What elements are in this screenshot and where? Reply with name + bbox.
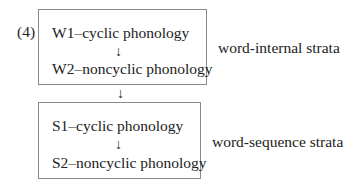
- word-internal-box: W1–cyclic phonology ↓ W2–noncyclic phono…: [38, 9, 207, 85]
- w1-cyclic-label: W1–cyclic phonology: [52, 24, 189, 42]
- example-number: (4): [17, 23, 35, 41]
- down-arrow-icon: ↓: [117, 87, 124, 101]
- word-internal-strata-label: word-internal strata: [218, 39, 340, 57]
- down-arrow-icon: ↓: [115, 45, 122, 59]
- s2-noncyclic-label: S2–noncyclic phonology: [52, 154, 207, 172]
- word-sequence-strata-label: word-sequence strata: [212, 133, 343, 151]
- w2-noncyclic-label: W2–noncyclic phonology: [52, 60, 213, 78]
- s1-cyclic-label: S1–cyclic phonology: [52, 117, 183, 135]
- word-sequence-box: S1–cyclic phonology ↓ S2–noncyclic phono…: [38, 102, 201, 179]
- down-arrow-icon: ↓: [115, 138, 122, 152]
